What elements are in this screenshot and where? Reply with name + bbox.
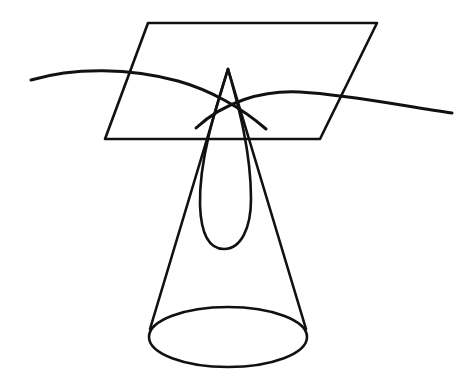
diagram-background: [0, 0, 475, 381]
figure-root: [0, 0, 475, 381]
cone-plane-diagram: [0, 0, 475, 381]
